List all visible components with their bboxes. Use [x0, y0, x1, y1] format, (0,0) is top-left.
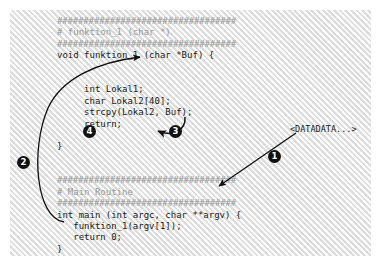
code-flow-diagram: ################################### funk…	[0, 0, 381, 271]
step-marker-1: 1	[268, 150, 281, 163]
arrow-call-into-function	[38, 57, 140, 222]
arrow-data-into-main	[219, 133, 296, 186]
flow-arrows	[0, 0, 381, 271]
step-marker-4: 4	[83, 125, 96, 138]
step-marker-2: 2	[17, 156, 30, 169]
step-marker-3: 3	[169, 125, 182, 138]
